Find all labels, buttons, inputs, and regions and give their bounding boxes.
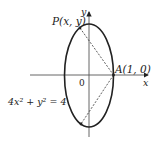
label-point-a: A(1, 0): [114, 63, 151, 75]
dashed-line-a-to-bottom: [81, 75, 114, 124]
point-bottom-dot: [80, 123, 83, 126]
label-origin: 0: [79, 78, 85, 88]
ellipse-diagram: P(x, y) A(1, 0) 0 x y 4x² + y² = 4: [0, 0, 156, 146]
label-x-axis: x: [143, 77, 149, 88]
dashed-line-p-to-a: [80, 28, 114, 75]
label-equation: 4x² + y² = 4: [7, 96, 66, 107]
label-y-axis: y: [80, 6, 87, 17]
point-p-dot: [79, 27, 82, 30]
